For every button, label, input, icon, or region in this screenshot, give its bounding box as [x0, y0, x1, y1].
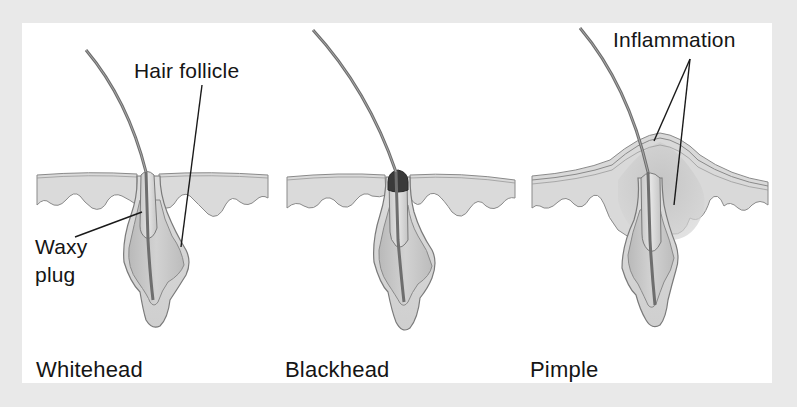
label-hair-follicle: Hair follicle	[134, 60, 239, 81]
caption-pimple: Pimple	[530, 359, 598, 381]
label-waxy: Waxy	[35, 236, 88, 257]
skin-layer	[37, 173, 137, 210]
label-plug: plug	[35, 264, 76, 285]
blackhead-illustration	[287, 30, 515, 330]
caption-blackhead: Blackhead	[285, 359, 390, 381]
pimple-illustration	[532, 28, 768, 327]
leader-line-hair-follicle	[181, 85, 202, 247]
caption-whitehead: Whitehead	[36, 359, 143, 381]
label-inflammation: Inflammation	[613, 29, 736, 50]
acne-illustration	[0, 0, 797, 407]
leader-line-inflammation-1	[654, 59, 690, 141]
blackhead-cap	[388, 170, 408, 192]
